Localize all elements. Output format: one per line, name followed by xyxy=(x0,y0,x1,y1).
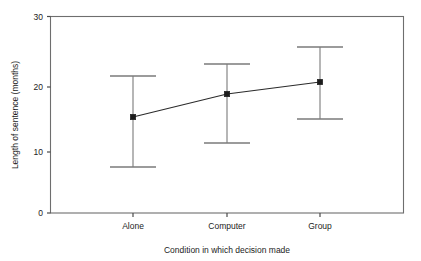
data-point-computer xyxy=(224,91,229,96)
data-point-alone xyxy=(130,114,135,119)
error-bar-line-chart: 30 20 10 0 Length of sentence (months) A… xyxy=(0,0,421,261)
y-tick-label-10: 10 xyxy=(34,147,44,157)
x-tick-label-group: Group xyxy=(308,221,332,231)
x-tick-label-alone: Alone xyxy=(122,221,144,231)
data-point-group xyxy=(317,79,322,84)
y-tick-label-0: 0 xyxy=(38,208,43,218)
x-axis-title: Condition in which decision made xyxy=(164,245,290,255)
y-axis-title: Length of sentence (months) xyxy=(10,61,20,169)
y-tick-label-20: 20 xyxy=(34,82,44,92)
x-tick-label-computer: Computer xyxy=(208,221,245,231)
x-axis-ticks xyxy=(133,213,320,217)
chart-figure: 30 20 10 0 Length of sentence (months) A… xyxy=(0,0,421,261)
y-tick-label-30: 30 xyxy=(34,12,44,22)
